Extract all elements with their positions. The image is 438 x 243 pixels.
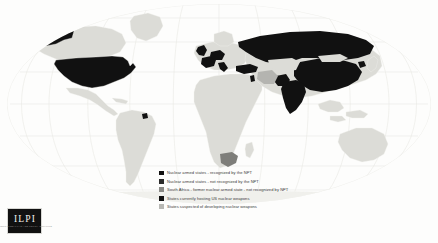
ilpi-logo: ILPI INTERNATIONAL LAW AND POLICY INSTIT… [7,208,42,234]
legend-label-hosting-us: States currently hosting US nuclear weap… [167,196,249,201]
legend-label-suspected: States suspected of developing nuclear w… [167,204,257,209]
ilpi-logo-mark: ILPI [13,214,36,224]
legend-label-south-africa: South Africa - former nuclear armed stat… [167,187,288,192]
legend-swatch-suspected [159,204,164,209]
legend-item-hosting-us: States currently hosting US nuclear weap… [159,194,404,202]
legend-item-suspected: States suspected of developing nuclear w… [159,203,404,211]
legend-item-nuclear-npt: Nuclear armed states - recognized by the… [159,169,404,177]
region-french-guiana [142,113,148,119]
legend-swatch-hosting-us [159,196,164,201]
legend-label-nuclear-npt: Nuclear armed states - recognized by the… [167,170,252,175]
legend-item-nuclear-non-npt: Nuclear armed states - not recognized by… [159,177,404,185]
map-legend: Nuclear armed states - recognized by the… [159,169,404,211]
legend-label-nuclear-non-npt: Nuclear armed states - not recognized by… [167,179,259,184]
ilpi-logo-subtitle: INTERNATIONAL LAW AND POLICY INSTITUTE [0,225,52,228]
legend-swatch-south-africa [159,187,164,192]
legend-item-south-africa: South Africa - former nuclear armed stat… [159,186,404,194]
legend-swatch-nuclear-non-npt [159,179,164,184]
legend-swatch-nuclear-npt [159,171,164,176]
nuclear-weapons-world-map-figure: Nuclear armed states - recognized by the… [0,0,438,243]
